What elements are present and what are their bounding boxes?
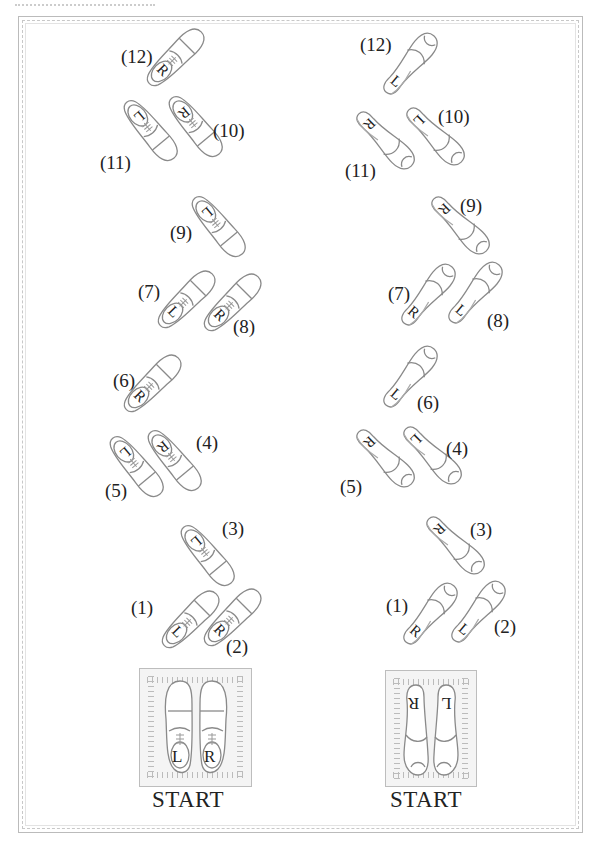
- women-start-label: START: [390, 787, 462, 813]
- women-step-number: (12): [360, 34, 392, 56]
- women-start-left-letter: R: [408, 693, 419, 713]
- women-step-number: (6): [417, 392, 439, 414]
- women-step-number: (7): [388, 283, 410, 305]
- men-step-number: (1): [131, 597, 153, 619]
- men-step-number: (5): [105, 480, 127, 502]
- page-frame: [18, 16, 583, 833]
- men-step-number: (8): [233, 316, 255, 338]
- men-start-box: L R: [139, 668, 252, 787]
- women-start-right-letter: L: [441, 693, 451, 713]
- women-step-number: (1): [386, 595, 408, 617]
- women-step-number: (11): [345, 160, 376, 182]
- men-start-right-letter: R: [204, 747, 215, 767]
- women-start-shoes-icon: [386, 671, 476, 786]
- men-start-shoes-icon: [140, 669, 251, 786]
- women-step-number: (4): [446, 438, 468, 460]
- men-step-number: (3): [222, 518, 244, 540]
- men-step-number: (12): [121, 46, 153, 68]
- men-step-number: (4): [196, 432, 218, 454]
- frame-inner-border: [25, 23, 576, 826]
- men-step-number: (2): [226, 636, 248, 658]
- women-step-number: (5): [340, 476, 362, 498]
- header-noise: [15, 4, 155, 9]
- men-step-number: (11): [100, 152, 131, 174]
- women-step-number: (2): [494, 616, 516, 638]
- men-start-label: START: [152, 787, 224, 813]
- men-step-number: (6): [113, 370, 135, 392]
- women-step-number: (8): [487, 310, 509, 332]
- men-start-left-letter: L: [172, 747, 182, 767]
- men-step-number: (7): [138, 281, 160, 303]
- women-start-box: R L: [385, 670, 477, 787]
- women-step-number: (10): [438, 106, 470, 128]
- women-step-number: (9): [460, 195, 482, 217]
- women-step-number: (3): [470, 519, 492, 541]
- men-step-number: (9): [170, 222, 192, 244]
- men-step-number: (10): [213, 120, 245, 142]
